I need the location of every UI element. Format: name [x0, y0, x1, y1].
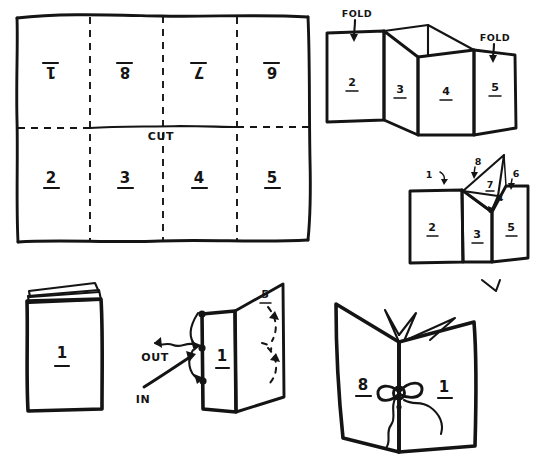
collapse-step: 1 8 6 7 4: [410, 155, 528, 263]
svg-text:5: 5: [267, 169, 277, 187]
hidden-thread-upper-head: [269, 311, 279, 320]
stitch-curve-upper: [191, 313, 198, 346]
collapse-label-2: 2: [427, 221, 438, 236]
collapse-pleat-spine: [504, 155, 506, 186]
hidden-thread-lower: [268, 348, 276, 383]
sketch-canvas: CUT 1 8 7 6 2: [0, 0, 533, 458]
svg-text:3: 3: [473, 228, 481, 241]
sheet-cell-bottom-1: 2: [44, 169, 59, 189]
collapse-label-3: 3: [472, 228, 483, 243]
collapse-panel-2: [410, 190, 463, 263]
collapse-callout-1: 1: [426, 169, 433, 180]
finished-bound-booklet: 8 1: [336, 280, 500, 452]
svg-text:1: 1: [439, 378, 449, 396]
flat-sheet-layout: CUT 1 8 7 6 2: [17, 15, 311, 242]
svg-text:3: 3: [396, 83, 404, 96]
thread-in-label: IN: [136, 393, 151, 406]
sketch-drawing: CUT 1 8 7 6 2: [0, 0, 533, 458]
finished-overlap-corner: [482, 280, 500, 291]
collapse-callout-7: 7: [487, 179, 494, 190]
fold-arrow-left-head: [350, 34, 358, 42]
collapse-arrow-1-head: [441, 179, 448, 185]
collapse-panel-3: [462, 190, 492, 262]
accordion-label-2: 2: [346, 76, 358, 91]
collapse-callout-6: 6: [513, 168, 520, 179]
thread-out-label: OUT: [141, 351, 169, 364]
svg-text:5: 5: [491, 81, 499, 94]
accordion-label-4: 4: [440, 85, 452, 100]
svg-text:7: 7: [194, 63, 204, 81]
bow-tail-left: [386, 399, 395, 448]
svg-text:1: 1: [57, 344, 67, 362]
thread-binding-step: 1 5 OUT IN: [136, 284, 284, 412]
sheet-cell-bottom-2: 3: [118, 169, 133, 189]
svg-text:4: 4: [194, 169, 204, 187]
svg-text:6: 6: [267, 63, 277, 81]
svg-text:5: 5: [507, 221, 515, 234]
bow-stitch-dot: [396, 404, 401, 409]
svg-text:2: 2: [428, 221, 436, 234]
sheet-cell-bottom-4: 5: [265, 169, 280, 189]
accordion-ridge-back: [384, 25, 428, 56]
fold-label-right: FOLD: [480, 32, 511, 43]
sheet-cell-bottom-3: 4: [192, 169, 207, 189]
svg-text:3: 3: [120, 169, 130, 187]
closed-booklet: 1: [27, 283, 102, 411]
svg-text:1: 1: [217, 347, 227, 365]
hidden-thread-lower-head: [270, 353, 280, 362]
svg-text:1: 1: [46, 63, 56, 81]
sheet-edge-left: [17, 18, 18, 242]
thread-out-arrow-head: [154, 337, 162, 348]
sheet-cell-top-3: 7: [191, 63, 206, 81]
svg-text:2: 2: [348, 76, 356, 89]
bow-tail-right: [404, 400, 442, 434]
sheet-cell-top-4: 6: [264, 63, 279, 81]
binding-hole-top: [198, 310, 205, 317]
svg-text:8: 8: [358, 376, 368, 394]
svg-text:4: 4: [442, 85, 450, 98]
svg-text:8: 8: [120, 63, 130, 81]
finished-right-page: [399, 322, 476, 452]
closed-booklet-label-1: 1: [55, 344, 69, 367]
accordion-fold-step: FOLD FOLD 2 3: [327, 8, 516, 136]
collapse-pleat-upper: [463, 155, 504, 196]
collapse-label-5: 5: [506, 221, 517, 236]
accordion-ridge-fold: [428, 25, 474, 50]
collapse-callout-8: 8: [475, 156, 482, 167]
finished-label-1: 1: [438, 378, 452, 399]
binding-bow-knot: [378, 383, 442, 448]
finished-label-8: 8: [356, 376, 371, 397]
svg-text:2: 2: [46, 169, 56, 187]
accordion-label-5: 5: [489, 81, 501, 96]
fold-label-left: FOLD: [342, 8, 373, 19]
cut-label: CUT: [148, 130, 174, 143]
fold-arrow-right-head: [489, 55, 497, 63]
cut-line: [90, 126, 237, 128]
accordion-label-3: 3: [394, 83, 406, 98]
svg-text:5: 5: [261, 288, 269, 301]
thread-spine: [202, 314, 203, 409]
thread-label-1: 1: [216, 347, 229, 369]
sheet-edge-right: [308, 17, 310, 240]
sheet-cell-top-1: 1: [43, 63, 58, 81]
sheet-cell-top-2: 8: [117, 63, 132, 81]
